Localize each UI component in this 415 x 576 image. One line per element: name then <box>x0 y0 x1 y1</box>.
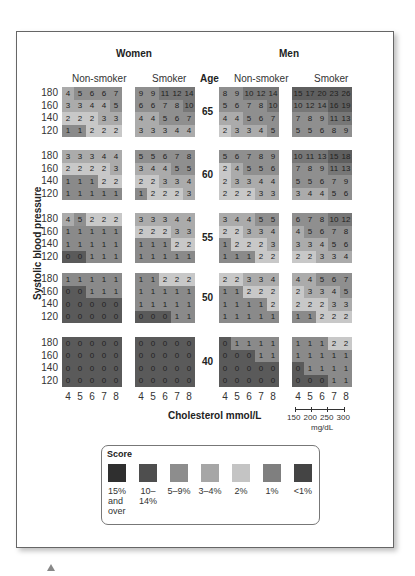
risk-cell: 1 <box>135 286 147 299</box>
risk-cell: 4 <box>267 273 279 286</box>
sbp-tick-label: 160 <box>36 286 58 297</box>
risk-cell: 0 <box>62 375 74 388</box>
risk-cell: 0 <box>74 350 86 363</box>
risk-cell: 2 <box>135 226 147 239</box>
mgdl-tick-label: 250 <box>320 413 333 422</box>
risk-cell: 1 <box>255 350 267 363</box>
risk-cell: 0 <box>267 362 279 375</box>
risk-cell: 2 <box>86 125 98 138</box>
risk-cell: 3 <box>86 150 98 163</box>
risk-cell: 2 <box>159 273 171 286</box>
risk-cell: 9 <box>231 87 243 100</box>
grid-men-smoker-60: 101113151878911135567934456 <box>292 150 352 200</box>
risk-cell: 7 <box>292 163 304 176</box>
risk-cell: 6 <box>292 213 304 226</box>
risk-cell: 1 <box>98 188 110 201</box>
risk-cell: 0 <box>86 375 98 388</box>
grid-men-smoker-50: 44567233452223311222 <box>292 273 352 323</box>
risk-cell: 2 <box>86 112 98 125</box>
age-label: 40 <box>202 356 213 367</box>
risk-cell: 2 <box>328 337 340 350</box>
risk-cell: 5 <box>292 175 304 188</box>
risk-cell: 2 <box>219 175 231 188</box>
risk-cell: 5 <box>304 175 316 188</box>
risk-cell: 2 <box>267 251 279 264</box>
risk-cell: 8 <box>316 213 328 226</box>
risk-cell: 2 <box>62 112 74 125</box>
legend-swatch <box>201 464 219 482</box>
risk-cell: 15 <box>292 87 304 100</box>
risk-cell: 1 <box>110 273 122 286</box>
risk-cell: 0 <box>86 362 98 375</box>
risk-cell: 3 <box>62 150 74 163</box>
risk-cell: 5 <box>255 213 267 226</box>
risk-cell: 8 <box>328 125 340 138</box>
risk-cell: 2 <box>183 238 195 251</box>
risk-cell: 1 <box>340 375 352 388</box>
score-legend: Score 15% and over10–14%5–9%3–4%2%1%<1% <box>101 445 320 525</box>
risk-cell: 1 <box>86 175 98 188</box>
risk-cell: 1 <box>255 337 267 350</box>
age-label: 65 <box>202 106 213 117</box>
risk-cell: 2 <box>86 213 98 226</box>
risk-cell: 2 <box>255 238 267 251</box>
risk-cell: 2 <box>98 125 110 138</box>
risk-cell: 1 <box>219 298 231 311</box>
risk-cell: 2 <box>292 298 304 311</box>
risk-cell: 3 <box>74 150 86 163</box>
risk-cell: 2 <box>98 175 110 188</box>
risk-cell: 5 <box>292 125 304 138</box>
risk-cell: 2 <box>147 175 159 188</box>
risk-cell: 1 <box>74 238 86 251</box>
risk-cell: 2 <box>340 311 352 324</box>
risk-cell: 0 <box>255 375 267 388</box>
grid-women-nonsmoker-60: 33344222231112211111 <box>62 150 122 200</box>
risk-cell: 7 <box>292 112 304 125</box>
cholesterol-tick-label: 8 <box>267 391 279 402</box>
cholesterol-tick-label: 5 <box>304 391 316 402</box>
risk-cell: 4 <box>219 112 231 125</box>
risk-cell: 1 <box>231 298 243 311</box>
risk-cell: 1 <box>328 362 340 375</box>
risk-cell: 6 <box>340 238 352 251</box>
risk-cell: 2 <box>255 286 267 299</box>
risk-cell: 1 <box>110 238 122 251</box>
risk-cell: 1 <box>340 362 352 375</box>
risk-cell: 1 <box>86 286 98 299</box>
risk-cell: 4 <box>304 273 316 286</box>
risk-cell: 3 <box>159 175 171 188</box>
risk-cell: 0 <box>171 362 183 375</box>
risk-cell: 3 <box>110 112 122 125</box>
cholesterol-tick-label: 7 <box>171 391 183 402</box>
risk-cell: 5 <box>340 286 352 299</box>
legend-swatch <box>232 464 250 482</box>
grid-men-smoker-65: 15172023261012141619789111355689 <box>292 87 352 137</box>
risk-cell: 0 <box>219 337 231 350</box>
risk-cell: 16 <box>328 100 340 113</box>
mgdl-label: mg/dL <box>311 423 333 432</box>
risk-cell: 0 <box>171 375 183 388</box>
risk-cell: 1 <box>86 273 98 286</box>
risk-cell: 2 <box>292 286 304 299</box>
mgdl-tick-label: 200 <box>304 413 317 422</box>
risk-cell: 1 <box>135 238 147 251</box>
risk-cell: 6 <box>316 175 328 188</box>
cholesterol-tick-label: 4 <box>292 391 304 402</box>
risk-cell: 1 <box>304 311 316 324</box>
sbp-tick-label: 140 <box>36 238 58 249</box>
grid-women-nonsmoker-40: 00000000000000000000 <box>62 337 122 387</box>
risk-cell: 5 <box>243 112 255 125</box>
legend-label: <1% <box>288 486 318 496</box>
risk-cell: 2 <box>98 163 110 176</box>
risk-cell: 7 <box>159 100 171 113</box>
risk-cell: 3 <box>159 213 171 226</box>
sbp-tick-label: 140 <box>36 175 58 186</box>
risk-cell: 0 <box>135 375 147 388</box>
risk-cell: 3 <box>255 226 267 239</box>
mgdl-tick-label: 150 <box>287 413 300 422</box>
risk-cell: 1 <box>243 298 255 311</box>
risk-cell: 4 <box>231 163 243 176</box>
risk-cell: 0 <box>98 350 110 363</box>
grid-women-nonsmoker-55: 45222111111111100111 <box>62 213 122 263</box>
risk-cell: 10 <box>243 87 255 100</box>
